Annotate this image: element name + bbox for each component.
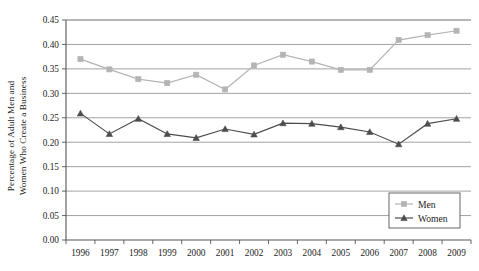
line-chart-plot: 0.000.050.100.150.200.250.300.350.400.45…: [0, 0, 479, 271]
chart-figure: Percentage of Adult Men and Women Who Cr…: [0, 0, 479, 271]
x-tick-label: 2006: [360, 248, 379, 258]
data-point: [136, 77, 141, 82]
data-point: [77, 110, 83, 116]
series-women: [77, 110, 459, 147]
data-point: [78, 57, 83, 62]
x-tick-label: 2004: [303, 248, 322, 258]
legend: MenWomen: [389, 193, 460, 228]
y-tick-label: 0.35: [43, 64, 60, 74]
x-tick-label: 2009: [447, 248, 466, 258]
legend-label: Women: [418, 213, 448, 224]
data-point: [453, 116, 459, 122]
data-point: [454, 28, 459, 33]
y-tick-label: 0.30: [43, 89, 60, 99]
x-tick-label: 2008: [418, 248, 437, 258]
x-tick-label: 2000: [187, 248, 206, 258]
x-tick-label: 2007: [389, 248, 408, 258]
y-tick-label: 0.20: [43, 138, 60, 148]
y-tick-label: 0.40: [43, 40, 60, 50]
x-tick-label: 2002: [245, 248, 264, 258]
data-point: [396, 37, 401, 42]
x-tick-label: 1997: [100, 248, 119, 258]
data-point: [338, 67, 343, 72]
data-point: [106, 131, 112, 137]
y-tick-label: 0.15: [43, 162, 60, 172]
y-tick-label: 0.05: [43, 211, 60, 221]
data-point: [309, 59, 314, 64]
data-point: [165, 80, 170, 85]
legend-label: Men: [418, 199, 436, 210]
data-point: [425, 33, 430, 38]
x-axis-ticks: 1996199719981999200020012002200320042005…: [66, 240, 471, 258]
data-point: [135, 116, 141, 122]
data-point: [194, 72, 199, 77]
series-men: [78, 28, 459, 92]
y-tick-label: 0.25: [43, 113, 60, 123]
data-point: [107, 67, 112, 72]
legend-marker: [401, 201, 406, 206]
y-tick-label: 0.45: [43, 15, 60, 25]
data-point: [280, 52, 285, 57]
data-point: [223, 87, 228, 92]
data-point: [251, 63, 256, 68]
data-point: [222, 126, 228, 132]
data-point: [367, 67, 372, 72]
x-tick-label: 1999: [158, 248, 177, 258]
y-tick-label: 0.10: [43, 186, 60, 196]
x-tick-label: 1998: [129, 248, 148, 258]
y-tick-label: 0.00: [43, 235, 60, 245]
x-tick-label: 2005: [332, 248, 351, 258]
x-tick-label: 2003: [274, 248, 293, 258]
x-tick-label: 2001: [216, 248, 235, 258]
x-tick-label: 1996: [71, 248, 90, 258]
